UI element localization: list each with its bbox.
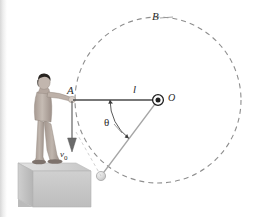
label-point-a: A: [67, 85, 74, 96]
pedestal-block: [18, 163, 91, 207]
diagram-canvas: [0, 0, 261, 217]
velocity-arrow-v0: [68, 101, 77, 152]
physics-diagram-figure: A B O l θ v0: [0, 0, 261, 217]
label-point-b: B: [152, 11, 159, 22]
point-B-tick: [160, 17, 173, 18]
page-edge-shadow: [0, 0, 7, 217]
angle-arc-theta: [110, 100, 129, 138]
label-length-l: l: [133, 84, 136, 95]
velocity-subscript: 0: [64, 154, 68, 162]
label-pivot-o: O: [168, 93, 175, 103]
label-velocity-v0: v0: [60, 150, 68, 162]
pivot-point-O: [153, 95, 164, 106]
string-O-to-ball: [101, 100, 158, 176]
theta-leader-line: [114, 124, 122, 133]
label-angle-theta: θ: [104, 117, 109, 128]
